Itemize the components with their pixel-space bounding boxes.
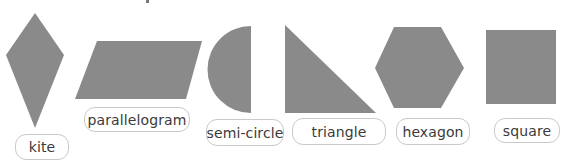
parallelogram-label-text: parallelogram: [88, 113, 187, 127]
semi-circle-shape: [208, 26, 252, 113]
triangle-shape: [285, 25, 376, 113]
semi-circle-label: semi-circle: [206, 119, 284, 146]
kite-label: kite: [15, 134, 69, 160]
kite-shape: [6, 13, 64, 128]
triangle-label: triangle: [292, 118, 386, 145]
hexagon-label-text: hexagon: [402, 125, 463, 139]
hexagon-label: hexagon: [396, 118, 470, 145]
parallelogram-shape: [75, 41, 202, 99]
square-shape: [486, 30, 556, 104]
square-label: square: [494, 118, 560, 143]
shapes-diagram: kite parallelogram semi-circle triangle …: [0, 0, 570, 162]
parallelogram-label: parallelogram: [84, 107, 190, 132]
kite-label-text: kite: [29, 140, 56, 154]
semi-circle-label-text: semi-circle: [207, 126, 284, 140]
square-label-text: square: [503, 124, 551, 138]
triangle-label-text: triangle: [312, 125, 367, 139]
shapes-canvas: [0, 0, 570, 162]
hexagon-shape: [375, 27, 464, 108]
